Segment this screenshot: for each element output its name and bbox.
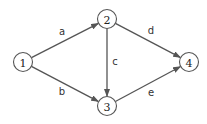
edge-label-c: c <box>112 57 118 67</box>
edge-label-a: a <box>59 27 65 37</box>
graph-diagram: abcde1234 <box>0 0 207 124</box>
node-label-3: 3 <box>104 101 111 112</box>
node-label-2: 2 <box>104 14 111 25</box>
node-label-1: 1 <box>20 57 27 68</box>
node-label-4: 4 <box>186 57 193 68</box>
edge-label-d: d <box>148 26 154 36</box>
edge-label-e: e <box>148 88 154 98</box>
edge-label-b: b <box>59 87 65 97</box>
